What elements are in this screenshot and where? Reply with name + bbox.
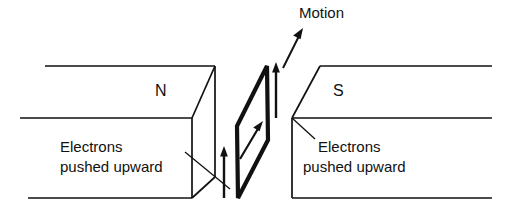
electron-flow-arrow-right-head [272,62,280,73]
electron-flow-arrow-right [272,62,280,118]
electrons-right-line2: pushed upward [303,158,406,175]
electron-flow-arrow-left-head [220,146,228,157]
motion-arrow-shaft [283,36,299,68]
diagram-canvas: N S Motion [0,0,516,210]
right-magnet-top-bevel [292,66,320,118]
conductor-current-arrow-shaft [240,127,259,159]
left-magnet-north [20,66,215,198]
induction-diagram: N S Motion [0,0,516,210]
electrons-left-line1: Electrons [60,138,123,155]
left-magnet-bottom-bevel [192,177,215,198]
conductor-current-arrow-head [253,121,263,131]
leader-line-right [292,118,315,139]
motion-label: Motion [299,4,344,21]
north-pole-label: N [155,82,167,99]
electrons-right-line1: Electrons [318,138,381,155]
south-pole-label: S [333,82,344,99]
right-magnet-south [292,66,492,198]
conductor-plate [237,66,268,198]
electron-flow-arrow-left [220,146,228,198]
left-magnet-top-bevel [192,66,215,118]
electrons-left-line2: pushed upward [60,158,163,175]
motion-arrow [283,28,303,68]
motion-arrow-head [293,28,303,39]
conductor-plate-outline [237,66,268,198]
